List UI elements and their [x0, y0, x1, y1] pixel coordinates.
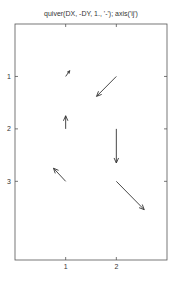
quiver-arrow — [66, 71, 70, 77]
x-tick-label: 1 — [64, 263, 68, 270]
y-tick-label: 3 — [7, 178, 11, 185]
chart-title: quiver(DX, -DY, 1., '-'); axis('ij') — [44, 10, 138, 18]
axis-ticks: 12123 — [7, 24, 167, 270]
plot-frame — [15, 24, 167, 260]
y-tick-label: 1 — [7, 73, 11, 80]
quiver-chart: quiver(DX, -DY, 1., '-'); axis('ij') 121… — [0, 0, 175, 281]
quiver-arrow — [97, 76, 117, 96]
arrow-field — [54, 71, 145, 210]
quiver-arrow — [116, 181, 144, 209]
arrow-shaft — [54, 168, 66, 181]
arrow-shaft — [97, 76, 117, 96]
quiver-arrow — [54, 168, 66, 181]
quiver-arrow — [63, 116, 67, 129]
quiver-arrow — [114, 129, 119, 163]
y-tick-label: 2 — [7, 125, 11, 132]
arrow-shaft — [116, 181, 144, 209]
x-tick-label: 2 — [114, 263, 118, 270]
